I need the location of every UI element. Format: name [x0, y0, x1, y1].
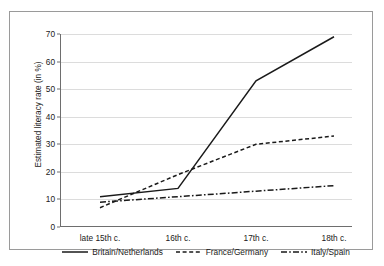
legend-item[interactable]: Britain/Netherlands: [62, 247, 163, 257]
series-line: [100, 37, 334, 197]
legend-label: Italy/Spain: [311, 247, 350, 257]
chart-legend: Britain/NetherlandsFrance/GermanyItaly/S…: [60, 247, 352, 257]
legend-item[interactable]: France/Germany: [176, 247, 268, 257]
x-tick-label: 17th c.: [244, 233, 269, 243]
x-tick-label: 18th c.: [322, 233, 347, 243]
y-tick-label: 50: [46, 84, 55, 94]
legend-label: Britain/Netherlands: [92, 247, 163, 257]
y-tick-label: 40: [46, 112, 55, 122]
chart-figure: Estimated literacy rate (in %) 010203040…: [0, 0, 384, 266]
y-tick-label: 10: [46, 194, 55, 204]
y-tick-label: 70: [46, 29, 55, 39]
series-line: [100, 136, 334, 208]
series-line: [100, 186, 334, 203]
x-tick-label: 16th c.: [166, 233, 191, 243]
series-lines: [60, 34, 352, 227]
y-axis-title: Estimated literacy rate (in %): [34, 25, 43, 205]
x-tick-label: late 15th c.: [80, 233, 121, 243]
plot-area: 010203040506070 late 15th c.16th c.17th …: [60, 34, 352, 227]
figure-frame: Estimated literacy rate (in %) 010203040…: [9, 11, 373, 250]
legend-label: France/Germany: [206, 247, 268, 257]
legend-item[interactable]: Italy/Spain: [281, 247, 350, 257]
y-tick-label: 20: [46, 167, 55, 177]
legend-line-swatch: [281, 248, 307, 256]
y-tick-label: 60: [46, 57, 55, 67]
y-tick-label: 30: [46, 139, 55, 149]
legend-line-swatch: [176, 248, 202, 256]
y-tick-label: 0: [50, 222, 55, 232]
legend-line-swatch: [62, 248, 88, 256]
